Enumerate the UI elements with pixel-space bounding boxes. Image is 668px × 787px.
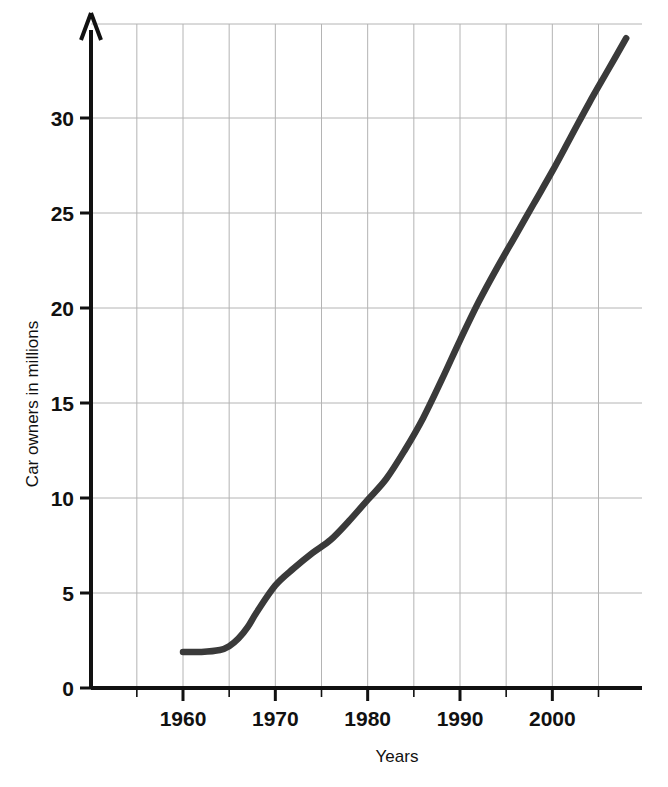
y-tick-label: 25 bbox=[51, 202, 75, 225]
y-axis-title: Car owners in millions bbox=[23, 321, 42, 487]
y-tick-label: 5 bbox=[62, 582, 74, 605]
y-tick-label: 0 bbox=[62, 677, 74, 700]
y-axis-tick-labels: 051015202530 bbox=[51, 107, 75, 700]
data-line bbox=[183, 38, 626, 652]
horizontal-gridlines bbox=[91, 24, 642, 593]
x-tick-label: 1970 bbox=[252, 707, 299, 730]
chart-container: 19601970198019902000 051015202530 Years … bbox=[0, 0, 668, 787]
chart-axes bbox=[81, 13, 642, 688]
x-axis-tick-labels: 19601970198019902000 bbox=[160, 707, 576, 730]
line-chart: 19601970198019902000 051015202530 Years … bbox=[0, 0, 668, 787]
x-tick-label: 1960 bbox=[160, 707, 207, 730]
x-tick-label: 2000 bbox=[529, 707, 576, 730]
y-tick-label: 20 bbox=[51, 297, 74, 320]
x-tick-label: 1980 bbox=[344, 707, 391, 730]
vertical-gridlines bbox=[137, 24, 599, 688]
axis-ticks bbox=[80, 118, 599, 701]
x-tick-label: 1990 bbox=[437, 707, 484, 730]
data-line-series bbox=[183, 38, 626, 652]
y-tick-label: 30 bbox=[51, 107, 74, 130]
y-tick-label: 10 bbox=[51, 487, 74, 510]
y-tick-label: 15 bbox=[51, 392, 75, 415]
x-axis-title: Years bbox=[376, 747, 419, 766]
